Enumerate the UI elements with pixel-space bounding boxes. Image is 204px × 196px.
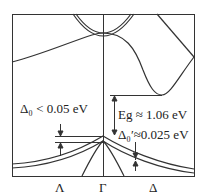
delta0-prime-label: Δ₀′≈0.025 eV [118, 128, 189, 141]
lambda-band [12, 33, 103, 62]
band-structure-diagram: Δ₀ < 0.05 eV Eg ≈ 1.06 eV Δ₀′≈0.025 eV Λ… [0, 0, 204, 196]
k-label-lambda: Λ [55, 181, 64, 194]
band-plot [0, 0, 204, 196]
eg-label: Eg ≈ 1.06 eV [118, 108, 187, 121]
delta-band [103, 33, 194, 95]
k-label-delta: Δ [149, 181, 157, 194]
delta0-label: Δ₀ < 0.05 eV [20, 102, 88, 115]
upper-right-band [157, 14, 194, 57]
k-label-gamma: Γ [99, 181, 107, 194]
